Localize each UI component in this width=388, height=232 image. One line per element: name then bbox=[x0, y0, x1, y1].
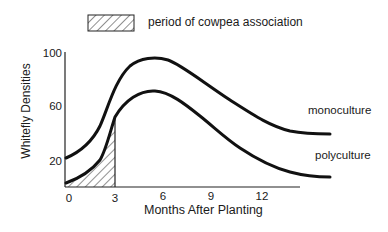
x-tick-12: 12 bbox=[256, 190, 269, 202]
x-axis-label: Months After Planting bbox=[144, 203, 263, 217]
x-tick-0: 0 bbox=[66, 192, 72, 204]
legend-label: period of cowpea association bbox=[148, 15, 303, 29]
x-tick-3: 3 bbox=[112, 192, 118, 204]
cowpea-period-area bbox=[66, 117, 115, 187]
legend-hatch-swatch bbox=[88, 15, 134, 31]
y-tick-20: 20 bbox=[32, 155, 62, 167]
y-tick-100: 100 bbox=[32, 47, 62, 59]
monoculture-label: monoculture bbox=[308, 104, 371, 116]
x-tick-9: 9 bbox=[208, 190, 214, 202]
x-tick-6: 6 bbox=[160, 190, 166, 202]
y-tick-60: 60 bbox=[32, 100, 62, 112]
polyculture-label: polyculture bbox=[315, 149, 371, 161]
y-axis-label: Whitefly Densities bbox=[19, 61, 33, 161]
chart-canvas bbox=[0, 0, 388, 232]
